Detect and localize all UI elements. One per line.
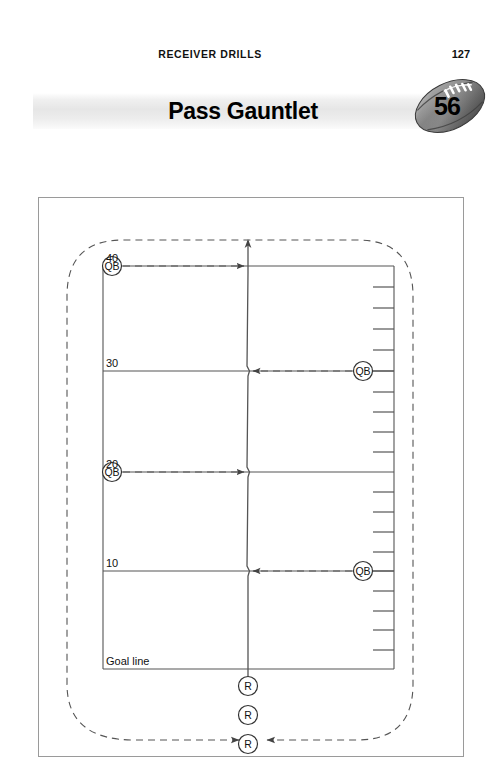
drill-title: Pass Gauntlet xyxy=(33,93,453,129)
goal-line-label: Goal line xyxy=(106,655,149,667)
receiver-marker-2: R xyxy=(239,706,258,725)
page-header: RECEIVER DRILLS 127 xyxy=(0,48,498,64)
hash-marks xyxy=(373,287,394,650)
receiver-label: R xyxy=(244,738,252,750)
page-number: 127 xyxy=(452,48,470,60)
drill-diagram: QB QB QB QB 40 30 20 10 Goal line R xyxy=(38,197,464,757)
field-diagram-svg: QB QB QB QB 40 30 20 10 Goal line R xyxy=(39,198,463,756)
title-banner: Pass Gauntlet xyxy=(33,93,453,129)
receiver-marker-3: R xyxy=(239,735,258,754)
yard-label-40: 40 xyxy=(106,252,118,264)
football-badge: 56 xyxy=(409,68,491,144)
drill-number: 56 xyxy=(409,68,491,144)
yard-label-10: 10 xyxy=(106,557,118,569)
qb-marker-10: QB xyxy=(354,562,373,581)
receiver-run-route xyxy=(245,239,252,680)
receiver-marker-1: R xyxy=(239,677,258,696)
yard-label-20: 20 xyxy=(106,458,118,470)
qb-marker-30: QB xyxy=(354,362,373,381)
return-loop-path xyxy=(67,240,413,743)
receiver-label: R xyxy=(244,709,252,721)
running-header-title: RECEIVER DRILLS xyxy=(0,48,420,60)
qb-label: QB xyxy=(355,565,370,577)
yard-label-30: 30 xyxy=(106,357,118,369)
receiver-label: R xyxy=(244,680,252,692)
qb-label: QB xyxy=(355,365,370,377)
